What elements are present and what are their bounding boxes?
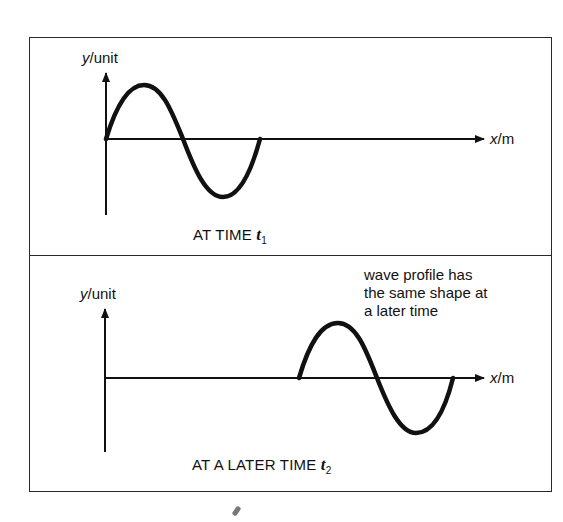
top-x-axis-label: x/m [490,130,514,148]
annotation-line: wave profile has [364,266,487,284]
bottom-y-axis-label: y/unit [80,285,116,303]
top-caption: AT TIME t1 [193,226,267,250]
wave-plots [0,0,563,522]
annotation-line: a later time [364,302,487,320]
top-y-axis-label: y/unit [82,49,118,67]
bottom-caption: AT A LATER TIME t2 [192,456,332,480]
top-wave-curve [106,85,260,197]
annotation-line: the same shape at [364,284,487,302]
bottom-x-axis-label: x/m [490,369,514,387]
wave-profile-annotation: wave profile has the same shape at a lat… [364,266,487,320]
